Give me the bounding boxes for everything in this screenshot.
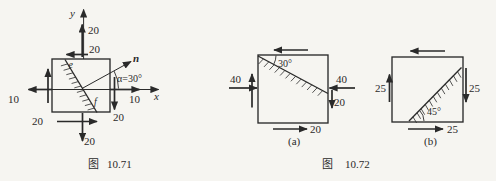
scanned-textbook-page: y x 10 10 20 20 20 20 20 e f n α=30° xyxy=(0,0,496,181)
normal-label: n xyxy=(133,52,139,64)
hatch-stroke xyxy=(307,85,312,90)
angle-arc-a xyxy=(274,56,276,64)
angle-label-a: 30° xyxy=(278,58,292,69)
hatch-stroke xyxy=(441,88,445,94)
hatch-stroke xyxy=(280,70,285,75)
fig-10-72-caption-prefix: 图 xyxy=(322,158,333,170)
fig-10-71-caption-number: 10.71 xyxy=(107,158,132,170)
hatch-stroke xyxy=(88,108,95,110)
fig-10-71-caption-prefix: 图 xyxy=(88,158,99,170)
sigma-right-label-a: 40 xyxy=(336,73,348,85)
hatch-stroke xyxy=(302,82,307,87)
hatch-stroke xyxy=(312,88,317,93)
subfig-label-a: (a) xyxy=(288,135,301,148)
hatch-stroke xyxy=(77,90,84,92)
shear-bottom-label-b: 25 xyxy=(447,123,459,135)
fig-10-72-caption-number: 10.72 xyxy=(345,158,370,170)
point-e-label: e xyxy=(69,59,74,70)
hatch-stroke xyxy=(264,62,269,67)
point-f-label: f xyxy=(94,96,98,107)
shear-right-label-b: 25 xyxy=(469,82,481,94)
sigma-left-label-a: 40 xyxy=(230,73,242,85)
sigma-x-left-label: 10 xyxy=(8,93,20,105)
section-hatching-ef xyxy=(61,64,94,110)
hatch-stroke xyxy=(74,86,81,88)
hatch-stroke xyxy=(72,82,79,84)
shear-left-label-b: 25 xyxy=(375,82,387,94)
fig-10-72b: 25 25 25 45° (b) xyxy=(375,51,481,148)
hatch-stroke xyxy=(291,76,296,81)
hatch-stroke xyxy=(286,73,291,78)
hatch-stroke xyxy=(417,113,421,119)
hatch-stroke xyxy=(449,80,453,86)
hatch-stroke xyxy=(421,109,425,115)
hatch-stroke xyxy=(82,99,89,101)
subfig-label-b: (b) xyxy=(424,135,437,148)
hatch-stroke xyxy=(80,95,87,97)
stress-square-a xyxy=(258,55,328,123)
hatch-stroke xyxy=(453,76,457,82)
hatch-stroke xyxy=(259,59,264,64)
hatch-stroke xyxy=(318,91,323,96)
shear-right-label: 20 xyxy=(113,111,125,123)
shear-top-label: 20 xyxy=(89,43,101,55)
y-axis-label: y xyxy=(69,7,75,19)
x-axis-label: x xyxy=(153,90,159,102)
hatch-stroke xyxy=(437,92,441,98)
hatch-stroke xyxy=(433,96,437,102)
hatch-stroke xyxy=(66,73,73,75)
fig-10-71: y x 10 10 20 20 20 20 20 e f n α=30° xyxy=(8,7,159,170)
angle-label-b: 45° xyxy=(427,106,441,117)
hatch-stroke xyxy=(61,64,68,66)
hatch-stroke xyxy=(69,77,76,79)
alpha-angle-label: α=30° xyxy=(117,73,142,84)
shear-bottom-label: 20 xyxy=(32,115,44,127)
hatch-stroke xyxy=(269,65,274,70)
sigma-y-top-label: 20 xyxy=(88,24,100,36)
shear-bottom-label-a: 20 xyxy=(310,123,322,135)
shear-right-label-a: 20 xyxy=(334,96,346,108)
hatch-stroke xyxy=(458,72,462,78)
hatch-stroke xyxy=(85,104,92,106)
hatch-stroke xyxy=(445,84,449,90)
stress-element-figures: y x 10 10 20 20 20 20 20 e f n α=30° xyxy=(0,0,496,181)
hatch-stroke xyxy=(296,79,301,84)
sigma-y-bottom-label: 20 xyxy=(84,135,96,147)
fig-10-72a: 40 40 20 20 30° (a) xyxy=(229,50,355,148)
sigma-x-right-label: 10 xyxy=(129,93,141,105)
